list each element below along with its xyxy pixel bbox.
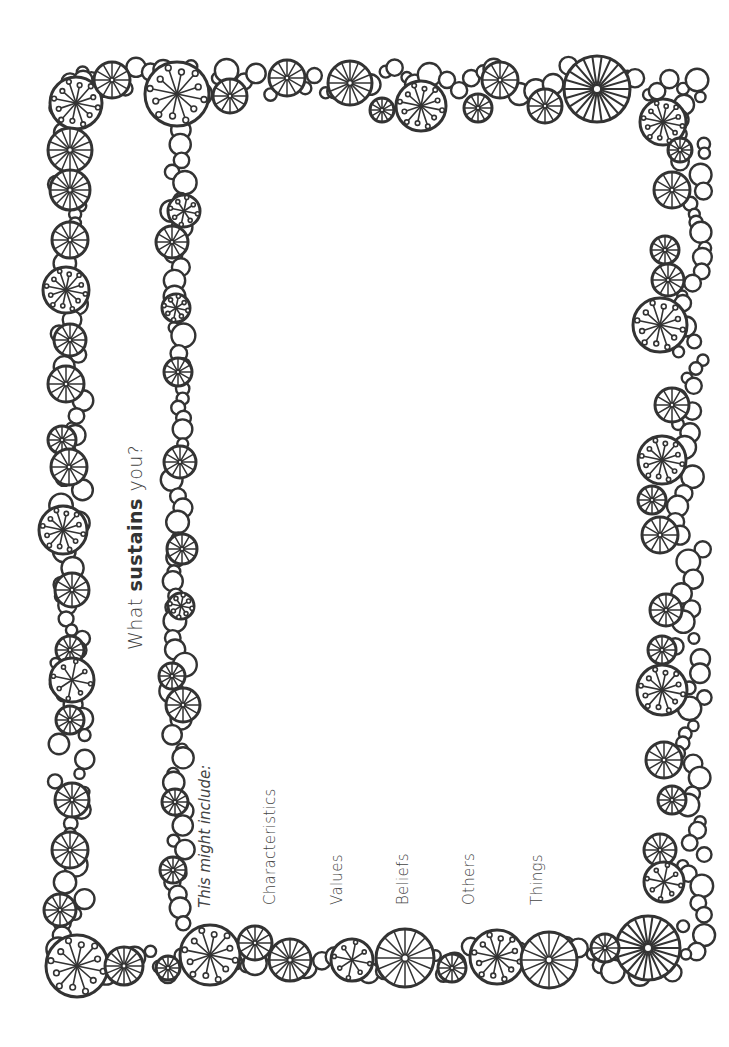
list-item-values: Values xyxy=(328,854,346,905)
title-emphasis: sustains xyxy=(124,498,146,591)
list-item-characteristics: Characteristics xyxy=(261,788,279,905)
list-item-things: Things xyxy=(528,854,546,905)
page-title: What sustains you? xyxy=(124,445,146,650)
title-suffix: you? xyxy=(124,445,146,499)
title-prefix: What xyxy=(124,592,146,650)
list-item-others: Others xyxy=(460,853,478,905)
list-item-beliefs: Beliefs xyxy=(394,853,412,905)
doodle-circle-border xyxy=(0,0,729,1047)
prompt-label: This might include: xyxy=(196,765,214,908)
